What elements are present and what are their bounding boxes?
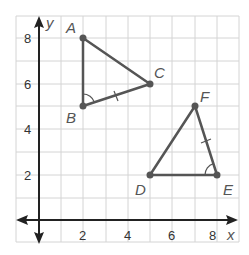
svg-text:6: 6 (168, 228, 175, 243)
label-c: C (154, 64, 165, 81)
svg-text:8: 8 (209, 228, 216, 243)
label-f: F (200, 88, 210, 105)
label-a: A (65, 19, 76, 36)
grid (16, 16, 239, 242)
triangle-def (150, 106, 217, 175)
svg-text:4: 4 (124, 228, 131, 243)
vertices-def (147, 103, 221, 179)
triangle-abc (83, 38, 150, 106)
label-d: D (135, 181, 146, 198)
svg-text:2: 2 (24, 168, 31, 183)
y-axis-label: y (45, 14, 55, 31)
angle-mark-b (83, 94, 94, 102)
svg-text:8: 8 (24, 31, 31, 46)
svg-text:4: 4 (24, 122, 31, 137)
label-e: E (223, 181, 234, 198)
axes (16, 16, 238, 244)
label-b: B (66, 109, 76, 126)
svg-text:6: 6 (24, 77, 31, 92)
coordinate-plane: y x 2 4 6 8 2 4 6 8 A B C D E F (0, 0, 249, 255)
y-tick-labels: 2 4 6 8 (24, 31, 31, 183)
x-axis-label: x (226, 226, 235, 243)
angle-mark-e (205, 164, 213, 175)
x-tick-labels: 2 4 6 8 (79, 228, 216, 243)
svg-text:2: 2 (79, 228, 86, 243)
